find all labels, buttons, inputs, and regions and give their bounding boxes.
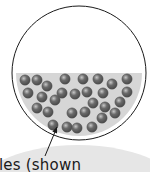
particle <box>98 88 108 98</box>
particle <box>122 74 132 84</box>
particle <box>107 79 117 89</box>
particle <box>80 107 90 117</box>
particle <box>20 75 30 85</box>
particle-label: les (shown <box>0 156 81 172</box>
particle <box>82 87 92 97</box>
particle <box>42 81 52 91</box>
particle <box>43 107 53 117</box>
particle <box>23 88 33 98</box>
particle <box>37 92 47 102</box>
particle <box>122 87 132 97</box>
particle <box>72 123 82 133</box>
particle <box>110 108 120 118</box>
particle <box>93 74 103 84</box>
particle <box>88 98 98 108</box>
particle <box>62 122 72 132</box>
particle <box>67 108 77 118</box>
particle <box>87 122 97 132</box>
particle <box>50 95 60 105</box>
particle <box>60 74 70 84</box>
particle <box>70 89 80 99</box>
particle <box>32 75 42 85</box>
particle <box>32 103 42 113</box>
particle <box>97 113 107 123</box>
particle <box>78 74 88 84</box>
particles-diagram <box>0 0 150 172</box>
particle <box>115 97 125 107</box>
particle <box>100 102 110 112</box>
